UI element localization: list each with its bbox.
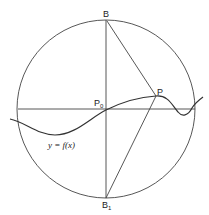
curve-y-f-x — [10, 96, 203, 135]
label-P: P — [157, 87, 163, 97]
diagram-canvas: B B1 P0 P y = f(x) — [0, 0, 209, 215]
label-B1: B1 — [102, 200, 112, 211]
segment-B1P — [106, 96, 156, 198]
label-P0: P0 — [94, 98, 104, 109]
segment-BP — [107, 21, 156, 96]
label-curve: y = f(x) — [47, 140, 75, 150]
label-B: B — [103, 9, 109, 19]
